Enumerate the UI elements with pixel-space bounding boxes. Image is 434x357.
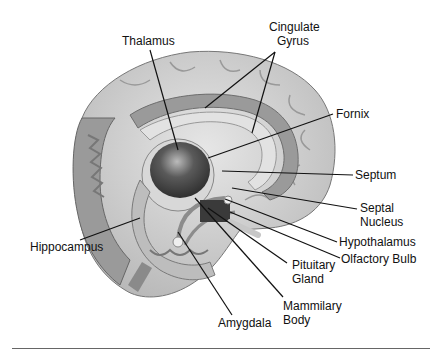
label-pituitary-gland-line2: Gland	[292, 272, 324, 286]
label-amygdala: Amygdala	[218, 316, 271, 330]
label-hypothalamus: Hypothalamus	[339, 235, 416, 249]
label-mammilary-body-line1: Mammilary	[283, 299, 342, 313]
bottom-divider	[12, 348, 430, 349]
thalamus-shape	[150, 142, 210, 198]
label-mammilary-body-line2: Body	[283, 313, 310, 327]
label-cingulate-gyrus-line2: Gyrus	[277, 34, 309, 48]
label-thalamus: Thalamus	[122, 34, 175, 48]
label-septal-nucleus-line1: Septal	[360, 201, 394, 215]
label-pituitary-gland-line1: Pituitary	[292, 258, 335, 272]
label-septal-nucleus-line2: Nucleus	[360, 215, 403, 229]
label-cingulate-gyrus-line1: Cingulate	[269, 20, 320, 34]
label-hippocampus: Hippocampus	[30, 240, 103, 254]
label-septum: Septum	[355, 168, 396, 182]
label-fornix: Fornix	[336, 107, 369, 121]
label-olfactory-bulb: Olfactory Bulb	[341, 252, 416, 266]
